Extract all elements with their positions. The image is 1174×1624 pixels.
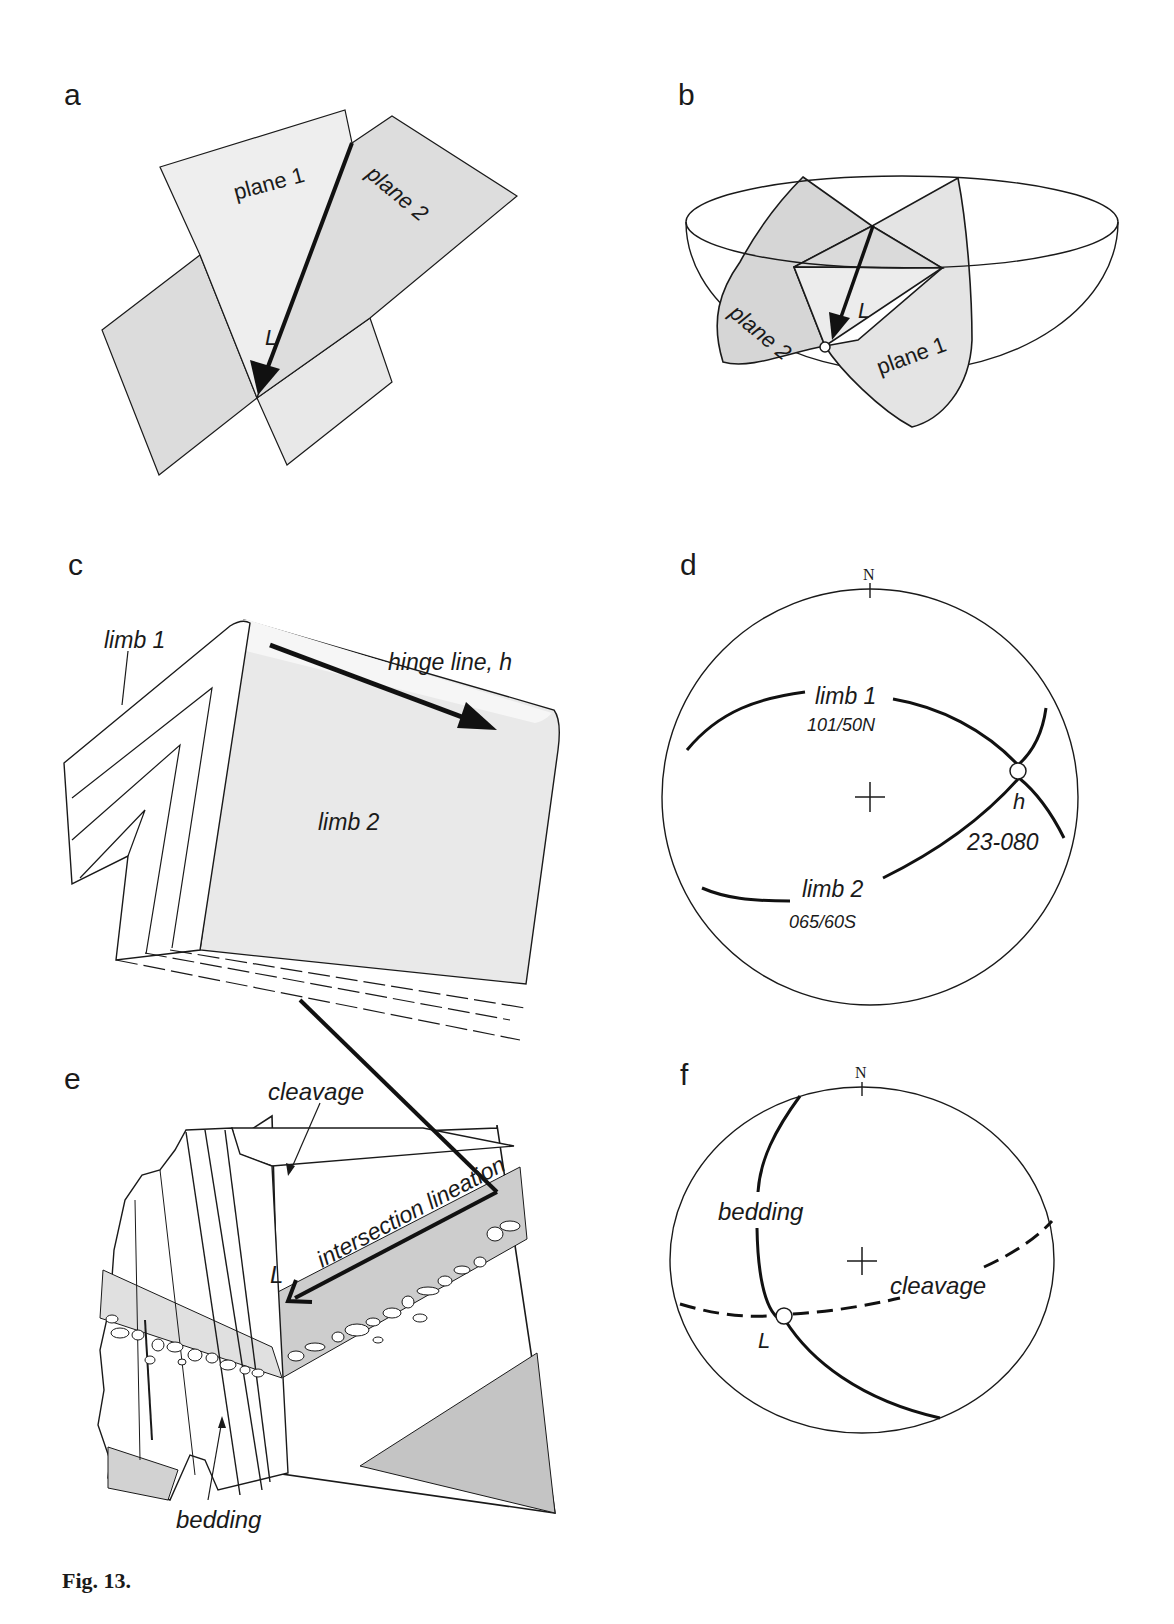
hinge-line-label: hinge line, h (388, 649, 512, 675)
figure-caption: Fig. 13. (62, 1568, 131, 1594)
lineation-point (820, 342, 830, 352)
lineation-label: L (270, 1261, 283, 1288)
panel-e: e (0, 1000, 600, 1560)
limb-1-leader (122, 651, 128, 705)
lineation-label: L (858, 298, 870, 323)
limb-2-great-circle-left (702, 888, 790, 901)
hemisphere-diagram: L plane 2 plane 1 (600, 0, 1174, 500)
stereonet-bedding-cleavage: N bedding cleavage L (600, 1000, 1174, 1560)
bedding-label: bedding (718, 1198, 804, 1225)
lineation-label: L (265, 325, 277, 350)
panel-f: f N bedding cleavage L (600, 1000, 1174, 1560)
limb-1-great-circle-right (893, 699, 1018, 765)
north-label: N (855, 1064, 867, 1081)
fold-block-diagram: limb 1 hinge line, h limb 2 (0, 520, 600, 980)
bedding-label: bedding (176, 1506, 262, 1533)
cleavage-great-circle-mid (793, 1298, 900, 1314)
panel-a: a plane 1 plane 2 L (0, 0, 600, 500)
stereonet-fold: N limb 1 101/50N h 23-080 limb 2 065/60S (600, 520, 1174, 980)
planes-block-diagram: plane 1 plane 2 L (0, 0, 600, 500)
cleavage-label: cleavage (268, 1078, 364, 1105)
limb-1-label: limb 1 (815, 683, 876, 709)
hinge-label: h (1013, 789, 1025, 814)
hinge-point (1010, 763, 1026, 779)
lineation-label: L (758, 1328, 770, 1353)
panel-c: c limb 1 hinge line, h limb 2 (0, 520, 600, 980)
limb-1-great-circle (687, 692, 805, 750)
limb-1-orientation: 101/50N (807, 715, 876, 735)
limb-2-great-circle (883, 778, 1019, 878)
limb-2-orientation: 065/60S (789, 912, 856, 932)
hinge-orientation: 23-080 (966, 829, 1039, 855)
lineation-point (776, 1308, 792, 1324)
panel-b: b L plane 2 plane 1 (600, 0, 1174, 500)
cleavage-great-circle-right (984, 1221, 1052, 1267)
limb-1-label: limb 1 (104, 627, 165, 653)
limb-2-label: limb 2 (318, 809, 380, 835)
panel-d: d N limb 1 101/50N h 23-080 limb 2 065/6… (600, 520, 1174, 980)
cleavage-label: cleavage (890, 1272, 986, 1299)
limb-1-continuation (1018, 708, 1046, 765)
north-label: N (863, 566, 875, 583)
bedding-cleavage-block: cleavage intersection lineation L beddin… (0, 1000, 600, 1560)
limb-2-label: limb 2 (802, 876, 864, 902)
